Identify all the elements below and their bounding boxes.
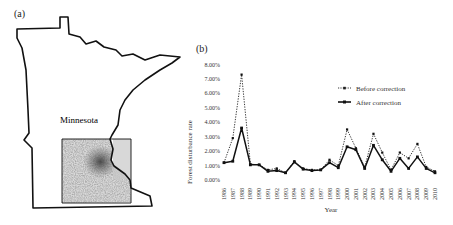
x-tick-label: 1991 (265, 188, 271, 200)
data-point-after (302, 168, 305, 171)
x-tick-label: 1995 (300, 188, 306, 200)
x-tick-label: 2001 (353, 188, 359, 200)
x-tick-label: 1994 (291, 188, 297, 200)
data-point-after (390, 170, 393, 173)
data-point-after (249, 163, 252, 166)
data-point-after (319, 168, 322, 171)
data-point-after (363, 167, 366, 170)
data-point-after (416, 156, 419, 159)
data-point-after (267, 170, 270, 173)
legend-before-label: Before correction (356, 85, 406, 93)
y-tick-label: 5.00% (205, 105, 221, 111)
x-tick-label: 1990 (256, 188, 262, 200)
data-point-after (354, 148, 357, 151)
x-tick-label: 2002 (362, 188, 368, 200)
data-point-after (240, 127, 243, 130)
x-tick-label: 1992 (274, 188, 280, 200)
data-point-before (381, 151, 383, 153)
y-tick-label: 3.00% (205, 134, 221, 140)
x-tick-label: 2000 (344, 188, 350, 200)
y-tick-label: 8.00% (205, 62, 221, 68)
legend: Before correction After correction (338, 85, 406, 107)
x-tick-label: 1996 (309, 188, 315, 200)
panel-b-label: (b) (196, 43, 208, 55)
x-tick-label: 2008 (414, 188, 420, 200)
data-point-after (381, 158, 384, 161)
legend-after-label: After correction (356, 99, 401, 107)
x-axis-title: Year (325, 206, 339, 214)
legend-after-marker (343, 101, 346, 104)
data-point-after (275, 169, 278, 172)
y-axis-ticks: 0.00%1.00%2.00%3.00%4.00%5.00%6.00%7.00%… (205, 62, 221, 184)
x-tick-label: 2004 (379, 188, 385, 200)
data-point-after (231, 160, 234, 163)
x-tick-label: 1989 (247, 188, 253, 200)
x-tick-label: 1999 (335, 188, 341, 200)
data-point-before (399, 151, 401, 153)
x-tick-label: 2005 (388, 188, 394, 200)
disturbance-rate-chart: (b) Forest disturbance rate Year 0.00%1.… (180, 30, 453, 225)
x-tick-label: 1997 (318, 188, 324, 200)
y-tick-label: 0.00% (205, 177, 221, 183)
data-point-after (407, 167, 410, 170)
data-point-after (372, 144, 375, 147)
y-tick-label: 1.00% (205, 163, 221, 169)
x-tick-label: 1987 (230, 188, 236, 200)
data-point-after (425, 167, 428, 170)
data-point-after (398, 157, 401, 160)
x-tick-label: 2006 (397, 188, 403, 200)
data-point-after (337, 166, 340, 169)
data-point-before (240, 74, 242, 76)
data-point-before (232, 137, 234, 139)
data-point-after (328, 161, 331, 164)
data-point-after (284, 171, 287, 174)
data-point-after (346, 145, 349, 148)
x-axis-ticks: 1986198719881989199019911992199319941995… (221, 188, 438, 200)
x-tick-label: 1986 (221, 188, 227, 200)
data-point-before (416, 143, 418, 145)
data-point-before (346, 128, 348, 130)
y-tick-label: 7.00% (205, 76, 221, 82)
y-tick-label: 2.00% (205, 148, 221, 154)
x-tick-label: 2003 (370, 188, 376, 200)
data-point-before (408, 157, 410, 159)
x-tick-label: 2009 (423, 188, 429, 200)
y-tick-label: 4.00% (205, 119, 221, 125)
data-point-after (311, 169, 314, 172)
minnesota-map: Minnesota (0, 0, 185, 225)
state-name-label: Minnesota (60, 115, 98, 125)
y-axis-title: Forest disturbance rate (186, 120, 194, 184)
data-point-after (434, 171, 437, 174)
data-point-before (372, 133, 374, 135)
study-area-east-strip (113, 139, 131, 179)
y-tick-label: 6.00% (205, 90, 221, 96)
series-line-after-correction (224, 128, 435, 173)
data-point-before (328, 159, 330, 161)
x-tick-label: 1998 (327, 188, 333, 200)
data-point-after (223, 161, 226, 164)
data-point-after (293, 161, 296, 164)
x-tick-label: 2010 (432, 188, 438, 200)
x-tick-label: 1993 (283, 188, 289, 200)
x-tick-label: 2007 (406, 188, 412, 200)
x-tick-label: 1988 (239, 188, 245, 200)
legend-before-marker (343, 87, 346, 90)
data-point-after (258, 163, 261, 166)
